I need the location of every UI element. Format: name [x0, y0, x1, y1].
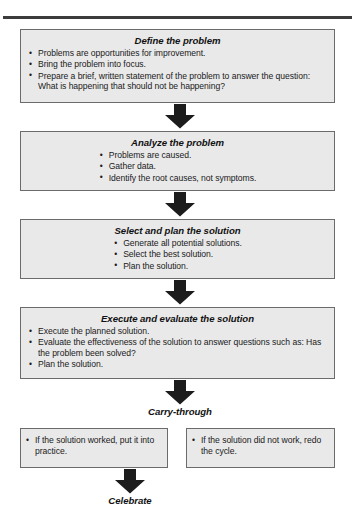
list-item: Identify the root causes, not symptoms.	[99, 173, 257, 184]
flow-arrow-analyze-to-select	[164, 192, 196, 217]
outcome-box-worked: If the solution worked, put it into prac…	[20, 428, 168, 468]
step-title-analyze: Analyze the problem	[28, 137, 327, 149]
outcome-box-did-not-work: If the solution did not work, redo the c…	[186, 428, 335, 468]
list-item: Plan the solution.	[28, 359, 327, 370]
step-box-select: Select and plan the solution Generate al…	[20, 219, 335, 279]
list-item: Gather data.	[99, 161, 257, 172]
list-item: Evaluate the effectiveness of the soluti…	[28, 337, 327, 359]
list-item: If the solution did not work, redo the c…	[191, 435, 328, 457]
step-box-execute: Execute and evaluate the solution Execut…	[20, 307, 335, 379]
step-box-analyze: Analyze the problem Problems are caused.…	[20, 131, 335, 191]
list-item: Generate all potential solutions.	[113, 238, 242, 249]
celebrate-label: Celebrate	[70, 495, 190, 507]
flow-arrow-worked-to-celebrate	[114, 469, 146, 494]
step-bullets-execute: Execute the planned solution. Evaluate t…	[28, 326, 327, 370]
list-item: Execute the planned solution.	[28, 326, 327, 337]
list-item: Select the best solution.	[113, 249, 242, 260]
flow-arrow-define-to-analyze	[164, 104, 196, 129]
list-item: Bring the problem into focus.	[28, 59, 327, 70]
step-box-define: Define the problem Problems are opportun…	[20, 29, 335, 103]
top-divider-rule	[3, 16, 352, 19]
list-item: Problems are caused.	[99, 150, 257, 161]
step-bullets-analyze: Problems are caused. Gather data. Identi…	[99, 150, 257, 184]
list-item: Problems are opportunities for improveme…	[28, 48, 327, 59]
step-title-define: Define the problem	[28, 35, 327, 47]
outcome-bullets-worked: If the solution worked, put it into prac…	[25, 435, 161, 457]
carry-through-label: Carry-through	[120, 406, 240, 418]
flow-arrow-execute-to-carry-through	[164, 380, 196, 405]
step-title-select: Select and plan the solution	[28, 225, 327, 237]
step-title-execute: Execute and evaluate the solution	[28, 313, 327, 325]
list-item: Prepare a brief, written statement of th…	[28, 71, 327, 93]
outcome-bullets-did-not-work: If the solution did not work, redo the c…	[191, 435, 328, 457]
step-bullets-define: Problems are opportunities for improveme…	[28, 48, 327, 92]
list-item: If the solution worked, put it into prac…	[25, 435, 161, 457]
step-bullets-select: Generate all potential solutions. Select…	[113, 238, 242, 272]
flow-arrow-select-to-execute	[164, 280, 196, 305]
list-item: Plan the solution.	[113, 261, 242, 272]
